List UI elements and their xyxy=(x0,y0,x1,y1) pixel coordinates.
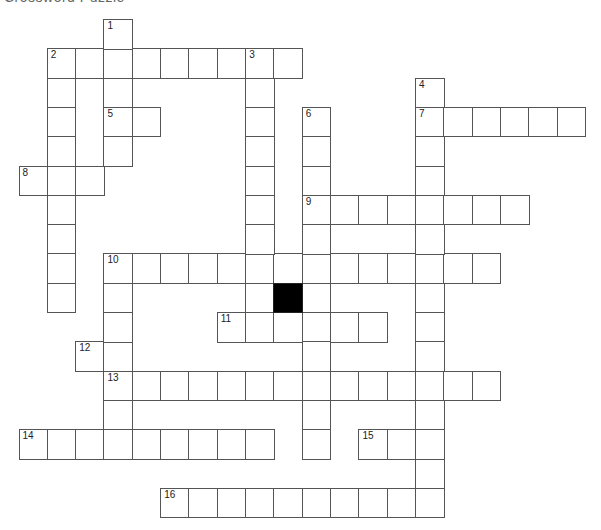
grid-cell[interactable] xyxy=(500,195,530,226)
grid-cell[interactable]: 12 xyxy=(75,341,105,372)
grid-cell[interactable] xyxy=(245,195,275,226)
grid-cell[interactable] xyxy=(245,253,275,284)
grid-cell[interactable] xyxy=(302,400,332,431)
grid-cell[interactable] xyxy=(387,253,417,284)
grid-cell[interactable] xyxy=(188,488,218,519)
grid-cell[interactable] xyxy=(415,488,445,519)
grid-cell[interactable] xyxy=(443,371,473,402)
grid-cell[interactable] xyxy=(103,312,133,343)
grid-cell[interactable] xyxy=(302,371,332,402)
grid-cell[interactable] xyxy=(415,429,445,460)
grid-cell[interactable] xyxy=(245,78,275,109)
grid-cell[interactable] xyxy=(302,253,332,284)
grid-cell[interactable]: 15 xyxy=(358,429,388,460)
grid-cell[interactable]: 9 xyxy=(302,195,332,226)
grid-cell[interactable] xyxy=(75,166,105,197)
grid-cell[interactable] xyxy=(302,166,332,197)
grid-cell[interactable]: 3 xyxy=(245,48,275,79)
grid-cell[interactable]: 11 xyxy=(217,312,247,343)
grid-cell[interactable] xyxy=(415,136,445,167)
grid-cell[interactable] xyxy=(302,429,332,460)
grid-cell[interactable] xyxy=(217,488,247,519)
grid-cell[interactable] xyxy=(245,429,275,460)
grid-cell[interactable] xyxy=(415,459,445,490)
grid-cell[interactable] xyxy=(302,136,332,167)
grid-cell[interactable] xyxy=(302,488,332,519)
grid-cell[interactable] xyxy=(500,107,530,138)
grid-cell[interactable] xyxy=(415,224,445,255)
grid-cell[interactable] xyxy=(188,371,218,402)
grid-cell[interactable] xyxy=(47,78,77,109)
grid-cell[interactable] xyxy=(47,253,77,284)
grid-cell[interactable] xyxy=(103,48,133,79)
grid-cell[interactable] xyxy=(415,312,445,343)
grid-cell[interactable]: 1 xyxy=(103,19,133,50)
grid-cell[interactable] xyxy=(415,195,445,226)
grid-cell[interactable]: 5 xyxy=(103,107,133,138)
grid-cell[interactable] xyxy=(47,107,77,138)
grid-cell[interactable] xyxy=(273,312,303,343)
grid-cell[interactable]: 10 xyxy=(103,253,133,284)
grid-cell[interactable] xyxy=(132,371,162,402)
grid-cell[interactable] xyxy=(472,371,502,402)
grid-cell[interactable] xyxy=(245,166,275,197)
grid-cell[interactable] xyxy=(415,371,445,402)
grid-cell[interactable] xyxy=(245,488,275,519)
grid-cell[interactable] xyxy=(358,371,388,402)
grid-cell[interactable] xyxy=(160,429,190,460)
grid-cell[interactable] xyxy=(415,166,445,197)
grid-cell[interactable] xyxy=(132,429,162,460)
grid-cell[interactable] xyxy=(103,429,133,460)
grid-cell[interactable] xyxy=(387,371,417,402)
grid-cell[interactable] xyxy=(330,312,360,343)
grid-cell[interactable]: 6 xyxy=(302,107,332,138)
grid-cell[interactable] xyxy=(528,107,558,138)
grid-cell[interactable] xyxy=(472,107,502,138)
grid-cell[interactable] xyxy=(273,253,303,284)
grid-cell[interactable] xyxy=(472,195,502,226)
grid-cell[interactable] xyxy=(358,312,388,343)
grid-cell[interactable] xyxy=(132,253,162,284)
grid-cell[interactable] xyxy=(415,253,445,284)
grid-cell[interactable]: 14 xyxy=(19,429,49,460)
grid-cell[interactable]: 8 xyxy=(19,166,49,197)
grid-cell[interactable] xyxy=(188,48,218,79)
grid-cell[interactable] xyxy=(245,371,275,402)
grid-cell[interactable] xyxy=(188,429,218,460)
grid-cell[interactable]: 13 xyxy=(103,371,133,402)
grid-cell[interactable] xyxy=(47,283,77,314)
grid-cell[interactable] xyxy=(47,195,77,226)
grid-cell[interactable] xyxy=(273,371,303,402)
grid-cell[interactable] xyxy=(273,48,303,79)
grid-cell[interactable] xyxy=(188,253,218,284)
grid-cell[interactable] xyxy=(330,253,360,284)
grid-cell[interactable] xyxy=(245,136,275,167)
grid-cell[interactable] xyxy=(160,371,190,402)
grid-cell[interactable] xyxy=(132,107,162,138)
grid-cell[interactable] xyxy=(103,341,133,372)
grid-cell[interactable] xyxy=(273,488,303,519)
grid-cell[interactable] xyxy=(443,107,473,138)
grid-cell[interactable]: 7 xyxy=(415,107,445,138)
grid-cell[interactable] xyxy=(103,283,133,314)
grid-cell[interactable] xyxy=(358,253,388,284)
grid-cell[interactable] xyxy=(160,253,190,284)
grid-cell[interactable] xyxy=(103,400,133,431)
grid-cell[interactable] xyxy=(387,488,417,519)
grid-cell[interactable] xyxy=(75,429,105,460)
grid-cell[interactable] xyxy=(387,429,417,460)
grid-cell[interactable] xyxy=(75,48,105,79)
grid-cell[interactable] xyxy=(47,166,77,197)
grid-cell[interactable] xyxy=(330,195,360,226)
grid-cell[interactable] xyxy=(302,283,332,314)
grid-cell[interactable] xyxy=(330,488,360,519)
grid-cell[interactable] xyxy=(245,312,275,343)
grid-cell[interactable] xyxy=(160,48,190,79)
grid-cell[interactable] xyxy=(245,224,275,255)
grid-cell[interactable] xyxy=(217,48,247,79)
grid-cell[interactable] xyxy=(330,371,360,402)
grid-cell[interactable] xyxy=(47,136,77,167)
grid-cell[interactable] xyxy=(103,78,133,109)
grid-cell[interactable]: 16 xyxy=(160,488,190,519)
grid-cell[interactable] xyxy=(47,429,77,460)
